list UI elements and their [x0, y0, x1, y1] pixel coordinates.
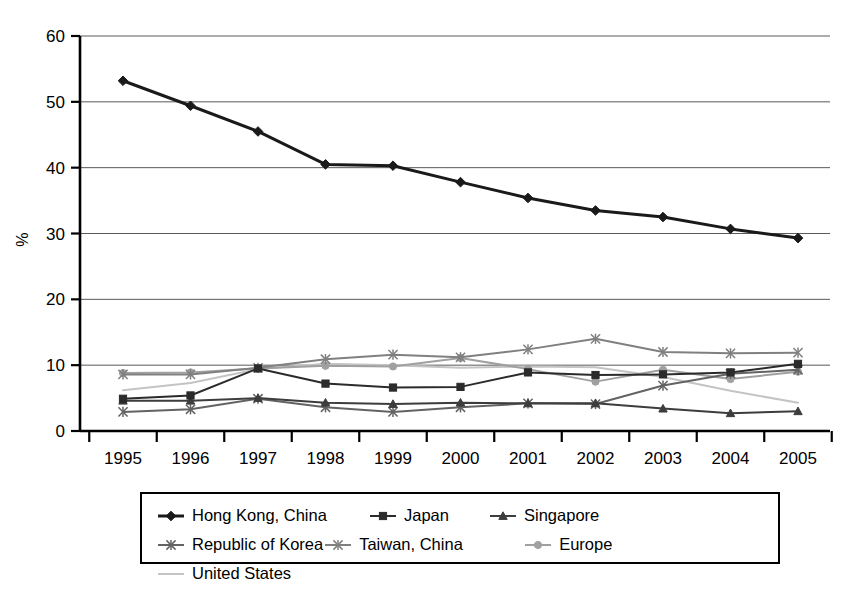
- chart-legend: Hong Kong, ChinaJapanSingaporeRepublic o…: [140, 492, 780, 564]
- data-point: [658, 212, 668, 222]
- series-line: [123, 364, 798, 399]
- legend-marker-square-icon: [368, 508, 398, 524]
- y-axis-title: %: [14, 232, 31, 246]
- data-point: [254, 365, 261, 372]
- series-japan: [119, 360, 801, 402]
- y-axis-tick-label: 40: [46, 159, 65, 178]
- data-point: [523, 193, 533, 203]
- y-axis-tick-label: 10: [46, 356, 65, 375]
- legend-marker-triangle-icon: [488, 508, 518, 524]
- x-axis-tick-label: 2002: [577, 449, 615, 468]
- x-axis-tick-label: 1997: [239, 449, 277, 468]
- x-axis-tick-label: 1998: [307, 449, 345, 468]
- x-axis-tick-label: 2004: [712, 449, 750, 468]
- y-axis-tick-label: 0: [56, 422, 65, 441]
- legend-label: Taiwan, China: [359, 536, 463, 553]
- data-point: [388, 161, 398, 171]
- data-point: [253, 127, 263, 137]
- legend-item-europe[interactable]: Europe: [523, 530, 683, 559]
- x-axis-tick-label: 1999: [374, 449, 412, 468]
- data-point: [118, 76, 128, 86]
- chart-container: 0102030405060%19951996199719981999200020…: [0, 0, 858, 594]
- x-axis-tick-label: 2000: [442, 449, 480, 468]
- legend-item-united-states[interactable]: United States: [156, 559, 291, 588]
- y-axis-tick-label: 50: [46, 93, 65, 112]
- x-axis-tick-label: 1995: [104, 449, 142, 468]
- data-point: [727, 369, 734, 376]
- data-point: [187, 392, 194, 399]
- data-point: [457, 383, 464, 390]
- legend-marker-circle-icon: [523, 537, 553, 553]
- legend-marker-star-icon: [323, 537, 353, 553]
- legend-item-hong-kong-china[interactable]: Hong Kong, China: [156, 501, 368, 530]
- y-axis-tick-label: 60: [46, 27, 65, 46]
- data-point: [524, 369, 531, 376]
- data-point: [726, 224, 736, 234]
- legend-item-singapore[interactable]: Singapore: [488, 501, 638, 530]
- data-point: [322, 380, 329, 387]
- y-axis-tick-label: 20: [46, 290, 65, 309]
- data-point: [794, 360, 801, 367]
- data-point: [793, 233, 803, 243]
- legend-label: Singapore: [524, 507, 599, 524]
- data-point: [389, 363, 396, 370]
- legend-label: Hong Kong, China: [192, 507, 327, 524]
- legend-marker-none-icon: [156, 566, 186, 582]
- legend-item-republic-of-korea[interactable]: Republic of Korea: [156, 530, 323, 559]
- legend-marker-diamond-icon: [156, 508, 186, 524]
- data-point: [592, 371, 599, 378]
- x-axis-tick-label: 1996: [172, 449, 210, 468]
- data-point: [119, 395, 126, 402]
- y-axis-tick-label: 30: [46, 225, 65, 244]
- x-axis-tick-label: 2003: [644, 449, 682, 468]
- data-point: [456, 177, 466, 187]
- legend-label: Japan: [404, 507, 449, 524]
- legend-label: United States: [192, 565, 291, 582]
- legend-label: Republic of Korea: [192, 536, 323, 553]
- x-axis-tick-label: 2005: [779, 449, 817, 468]
- legend-item-japan[interactable]: Japan: [368, 501, 488, 530]
- data-point: [591, 206, 601, 216]
- legend-item-taiwan-china[interactable]: Taiwan, China: [323, 530, 523, 559]
- x-axis-tick-label: 2001: [509, 449, 547, 468]
- series-hong-kong-china: [118, 76, 803, 243]
- series-line: [123, 81, 798, 238]
- data-point: [389, 384, 396, 391]
- legend-marker-star-icon: [156, 537, 186, 553]
- data-point: [659, 371, 666, 378]
- data-point: [186, 101, 196, 111]
- legend-label: Europe: [559, 536, 612, 553]
